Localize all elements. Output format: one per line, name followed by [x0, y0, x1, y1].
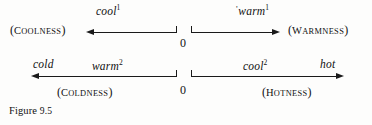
scale2-right-term-superscript: 2 — [264, 58, 268, 67]
figure-caption-number: 9.5 — [40, 105, 52, 116]
scale2-right-arrowhead — [336, 73, 344, 79]
scale1-right-term-superscript: 1 — [265, 3, 269, 12]
scale2-right-outer-term: hot — [320, 59, 335, 71]
scale2-origin-label: 0 — [180, 84, 186, 96]
scale2-left-term-text: warm — [92, 60, 119, 72]
scale1-right-endpoint: (WARMNESS) — [288, 24, 348, 37]
scale2-left-arrowhead — [31, 73, 39, 79]
scale1-right-term: 'warm1 — [236, 4, 269, 17]
figure-caption: Figure 9.5 — [9, 106, 52, 117]
scale2-left-axis-line — [39, 76, 177, 77]
scale2-left-axis-endtick — [176, 70, 177, 77]
scale2-left-outer-term-text: cold — [33, 58, 54, 70]
scale1-origin-label: 0 — [180, 37, 186, 49]
scale1-left-term: cool1 — [96, 4, 120, 17]
scale2-right-endpoint: (HOTNESS) — [262, 86, 312, 99]
scale2-left-term-superscript: 2 — [119, 58, 123, 67]
scale1-left-term-text: cool — [96, 5, 117, 17]
scale2-left-endpoint: (COLDNESS) — [57, 86, 112, 99]
figure-container: cool1 'warm1 (COOLNESS) (WARMNESS) 0 col… — [0, 0, 372, 125]
scale1-left-arrowhead — [86, 29, 94, 35]
scale1-left-axis-line — [94, 32, 177, 33]
scale2-left-outer-term: cold — [33, 59, 54, 71]
scale2-right-term: cool2 — [243, 59, 267, 72]
scale1-left-term-superscript: 1 — [117, 3, 121, 12]
scale2-right-axis-line — [191, 76, 337, 77]
figure-caption-label: Figure — [9, 105, 37, 116]
scale2-right-outer-term-text: hot — [320, 58, 335, 70]
scale2-right-term-text: cool — [243, 60, 264, 72]
scale1-right-arrowhead — [272, 29, 280, 35]
scale1-right-axis-line — [191, 32, 273, 33]
scale1-left-axis-endtick — [176, 26, 177, 33]
scale2-left-term: warm2 — [92, 59, 123, 72]
scale1-left-endpoint: (COOLNESS) — [10, 24, 65, 37]
scale1-right-term-text: warm — [238, 5, 265, 17]
